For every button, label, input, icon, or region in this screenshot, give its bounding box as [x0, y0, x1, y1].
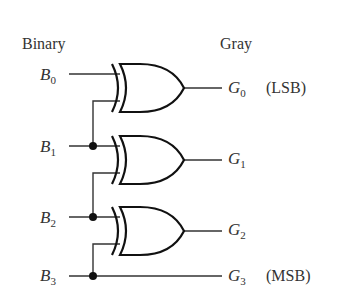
junction-dot-b1	[89, 142, 97, 150]
svg-text:G3: G3	[228, 266, 246, 287]
xor-gate-2	[112, 136, 184, 184]
svg-text:B1: B1	[40, 137, 56, 158]
xor-gate-3	[112, 207, 184, 255]
input-label-b3: B3	[40, 266, 56, 287]
wire-b2-to-gate2	[93, 173, 120, 217]
output-label-g1: G1	[228, 149, 246, 170]
wire-b1-to-gate1	[93, 101, 120, 146]
output-label-g3: G3 (MSB)	[228, 266, 310, 287]
binary-header: Binary	[22, 35, 66, 53]
msb-note: (MSB)	[266, 267, 310, 285]
junction-dot-b3	[89, 272, 97, 280]
binary-to-gray-circuit: Binary Gray B0 B1 B2 B3 G0 (LSB) G1 G2 G…	[0, 0, 342, 303]
gray-header: Gray	[220, 35, 252, 53]
output-label-g2: G2	[228, 220, 246, 241]
wire-b3-to-gate3	[93, 244, 120, 276]
svg-text:G1: G1	[228, 149, 246, 170]
svg-text:G0: G0	[228, 78, 246, 99]
input-label-b2: B2	[40, 208, 56, 229]
output-label-g0: G0 (LSB)	[228, 78, 306, 99]
svg-text:G2: G2	[228, 220, 246, 241]
junction-dot-b2	[89, 213, 97, 221]
xor-gate-1	[112, 64, 184, 112]
input-label-b0: B0	[40, 65, 56, 86]
lsb-note: (LSB)	[266, 79, 306, 97]
wires	[69, 74, 222, 276]
svg-text:B3: B3	[40, 266, 56, 287]
input-label-b1: B1	[40, 137, 56, 158]
svg-text:B0: B0	[40, 65, 56, 86]
svg-text:B2: B2	[40, 208, 56, 229]
